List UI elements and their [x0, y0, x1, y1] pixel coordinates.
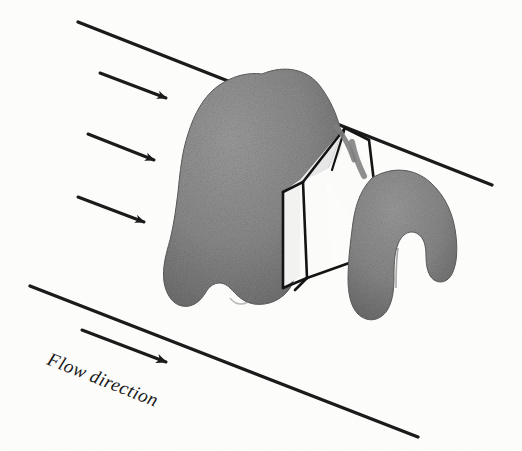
- figure-svg: Flow direction: [0, 0, 522, 451]
- figure-root: Flow direction: [0, 0, 522, 451]
- control-volume-left-face: [283, 180, 300, 288]
